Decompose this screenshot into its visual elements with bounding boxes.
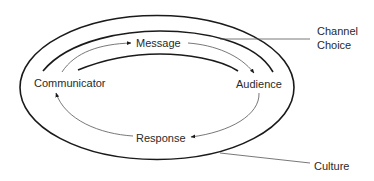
label-communicator: Communicator [34,77,106,89]
inner-arc [78,54,238,71]
communication-diagram: Message Communicator Audience Response C… [0,0,374,181]
culture-leader [220,153,310,163]
label-culture: Culture [314,160,349,172]
arrow-response-to-communicator [56,93,133,136]
label-response: Response [136,132,186,144]
arrow-audience-to-response [191,93,259,137]
label-choice: Choice [317,39,351,51]
label-audience: Audience [236,78,282,90]
label-message: Message [136,37,181,49]
label-channel: Channel [317,25,358,37]
